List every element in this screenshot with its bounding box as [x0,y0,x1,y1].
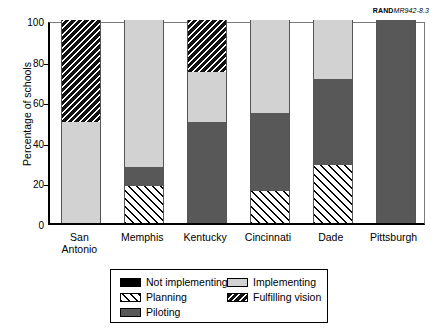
y-tick-label: 80 [24,59,44,69]
chart-figure: RANDMR942-8.3 Percentage of schools 0204… [0,0,437,334]
bar-segment[interactable] [187,72,227,122]
bar-segment[interactable] [250,20,290,113]
legend-item[interactable]: Piloting [120,305,228,320]
source-tag-italic: MR942-8.3 [393,7,429,14]
legend-swatch-icon [120,293,141,302]
legend-label: Implementing [253,277,316,288]
bar-segment[interactable] [124,20,164,167]
legend-label: Piloting [146,307,180,318]
legend-item[interactable]: Implementing [227,275,321,290]
bar-segment[interactable] [376,20,416,223]
x-axis-label: Cincinnati [237,231,300,243]
bar-segment[interactable] [313,165,353,223]
x-axis-label: Dade [299,231,362,243]
bar-segment[interactable] [187,20,227,72]
x-axis-label: Kentucky [174,231,237,243]
bar-column[interactable] [376,23,416,223]
bar-segment[interactable] [187,122,227,224]
x-axis-label: San Antonio [48,231,111,255]
bar-stack [187,23,227,223]
source-tag-bold: RAND [373,7,394,14]
bar-segment[interactable] [250,191,290,223]
bar-column[interactable] [250,23,290,223]
y-tick-label: 40 [24,140,44,150]
bar-stack [124,23,164,223]
bar-segment[interactable] [61,122,101,224]
bar-segment[interactable] [124,167,164,186]
legend-label: Not implementing [146,277,228,288]
legend-item[interactable]: Planning [120,290,228,305]
bar-segment[interactable] [250,113,290,190]
bar-segment[interactable] [61,20,101,122]
x-axis-label: Memphis [111,231,174,243]
chart-legend: Not implementingPlanningPiloting Impleme… [110,269,328,323]
bar-column[interactable] [313,23,353,223]
bar-segment[interactable] [124,186,164,223]
legend-swatch-icon [120,308,141,317]
bar-segment[interactable] [313,20,353,79]
y-tick-label: 100 [24,18,44,28]
legend-item[interactable]: Not implementing [120,275,228,290]
bar-group [50,23,424,223]
legend-swatch-icon [227,293,248,302]
bar-segment[interactable] [313,79,353,165]
bar-stack [250,23,290,223]
source-tag: RANDMR942-8.3 [373,7,429,14]
legend-label: Planning [146,292,187,303]
y-tick-label: 20 [24,180,44,190]
bar-stack [313,23,353,223]
bar-stack [376,23,416,223]
bar-column[interactable] [124,23,164,223]
plot-area: 020406080100 [48,22,425,225]
y-tick-label: 0 [24,221,44,231]
legend-label: Fulfilling vision [253,292,321,303]
x-axis-label: Pittsburgh [362,231,425,243]
y-tick-label: 60 [24,99,44,109]
legend-column-right: ImplementingFulfilling vision [227,275,321,305]
legend-column-left: Not implementingPlanningPiloting [120,275,228,320]
legend-item[interactable]: Fulfilling vision [227,290,321,305]
bar-stack [61,23,101,223]
legend-swatch-icon [120,278,141,287]
legend-swatch-icon [227,278,248,287]
bar-column[interactable] [61,23,101,223]
bar-column[interactable] [187,23,227,223]
